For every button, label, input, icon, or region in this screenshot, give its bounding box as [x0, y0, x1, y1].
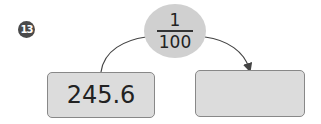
fraction-denominator: 100 [159, 33, 191, 51]
operator-ellipse: 1 100 [144, 4, 206, 58]
input-value: 245.6 [67, 81, 136, 109]
fraction-numerator: 1 [170, 11, 181, 29]
input-box: 245.6 [47, 72, 155, 118]
answer-box[interactable] [195, 70, 305, 117]
